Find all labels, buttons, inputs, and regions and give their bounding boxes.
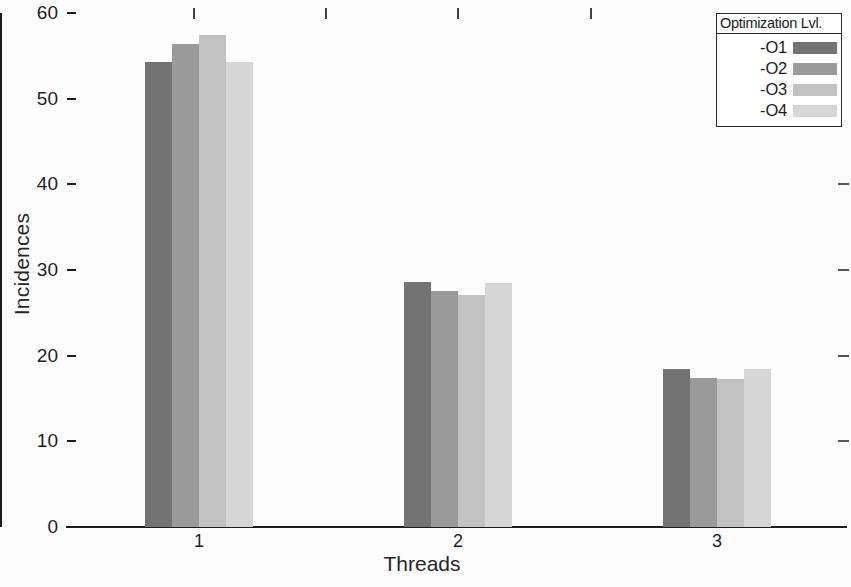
bar-O1-threads-1 (145, 62, 172, 527)
legend: Optimization Lvl. -O1-O2-O3-O4 (716, 13, 842, 127)
bar-O4-threads-2 (485, 283, 512, 527)
y-tick-label-0: 0 (6, 516, 58, 538)
y-tick-0 (67, 526, 76, 528)
x-tick-label-3: 3 (687, 531, 747, 552)
legend-title: Optimization Lvl. (717, 14, 841, 34)
bar-O1-threads-2 (404, 282, 431, 527)
legend-body: -O1-O2-O3-O4 (717, 34, 841, 126)
legend-swatch-icon (793, 84, 837, 96)
legend-item-label: -O2 (760, 59, 787, 78)
top-tick-4 (590, 8, 592, 19)
y-tick-label-40: 40 (6, 173, 58, 195)
y-tick-60 (67, 12, 76, 14)
bar-O1-threads-3 (663, 369, 690, 527)
y-tick-label-30: 30 (6, 259, 58, 281)
legend-item-label: -O3 (760, 80, 787, 99)
x-axis-title: Threads (0, 552, 845, 576)
x-tick-label-2: 2 (428, 531, 488, 552)
x-tick-label-1: 1 (169, 531, 229, 552)
bar-O4-threads-3 (744, 369, 771, 527)
top-tick-2 (325, 8, 327, 19)
bar-O2-threads-2 (431, 291, 458, 527)
bar-O2-threads-1 (172, 44, 199, 527)
y-tick-label-20: 20 (6, 345, 58, 367)
legend-swatch-icon (793, 63, 837, 75)
bar-O3-threads-2 (458, 295, 485, 527)
y-tick-label-10: 10 (6, 430, 58, 452)
legend-swatch-icon (793, 42, 837, 54)
right-tick-30 (838, 269, 849, 271)
legend-item-O3: -O3 (721, 79, 837, 100)
top-tick-1 (193, 8, 195, 19)
y-tick-label-60: 60 (6, 2, 58, 24)
y-tick-label-50: 50 (6, 88, 58, 110)
legend-item-O4: -O4 (721, 100, 837, 121)
legend-item-label: -O4 (760, 101, 787, 120)
right-tick-10 (838, 440, 849, 442)
legend-item-label: -O1 (760, 38, 787, 57)
legend-item-O2: -O2 (721, 58, 837, 79)
bar-O4-threads-1 (226, 62, 253, 527)
right-tick-40 (838, 183, 849, 185)
top-tick-3 (457, 8, 459, 19)
y-tick-40 (67, 183, 76, 185)
x-axis-title-text: Threads (383, 552, 460, 576)
right-tick-20 (838, 355, 849, 357)
bar-chart: Incidences 0102030405060123 Threads Opti… (0, 0, 851, 587)
legend-item-O1: -O1 (721, 37, 837, 58)
y-tick-10 (67, 440, 76, 442)
y-tick-30 (67, 269, 76, 271)
legend-swatch-icon (793, 105, 837, 117)
bar-O3-threads-3 (717, 379, 744, 527)
bar-O3-threads-1 (199, 35, 226, 527)
bar-O2-threads-3 (690, 378, 717, 527)
y-tick-20 (67, 355, 76, 357)
y-tick-50 (67, 98, 76, 100)
